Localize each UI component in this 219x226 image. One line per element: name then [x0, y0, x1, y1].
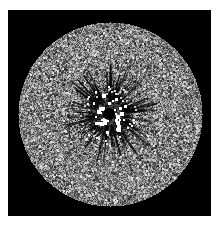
radial-noise-disk-image — [0, 0, 219, 226]
